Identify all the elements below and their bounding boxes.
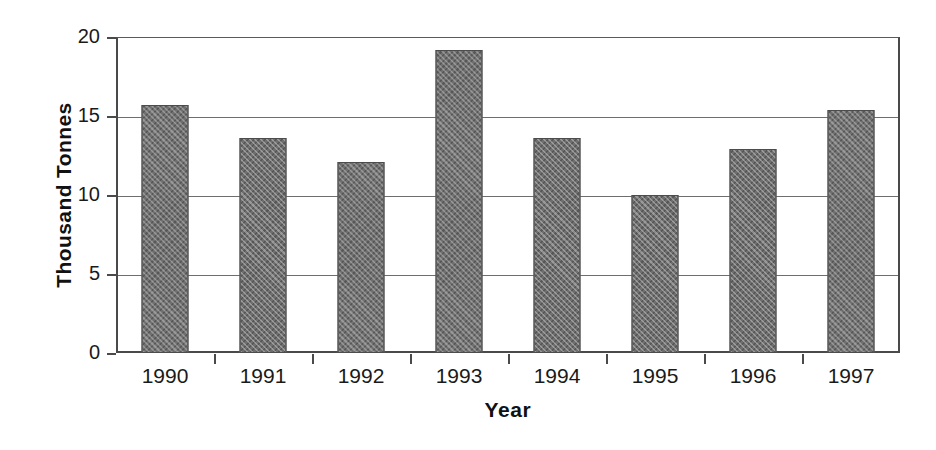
y-axis-tick-label: 5	[58, 263, 100, 283]
bar-chart: Thousand Tonnes 05101520 199019911992199…	[0, 0, 936, 450]
bar-slot	[116, 37, 214, 353]
bar-slot	[704, 37, 802, 353]
y-axis-tick-label: 20	[58, 26, 100, 46]
bar-slot	[214, 37, 312, 353]
bar[interactable]	[240, 138, 287, 353]
x-axis-tick	[508, 354, 510, 364]
x-axis-tick-label: 1995	[606, 364, 704, 387]
x-axis-tick-label: 1997	[802, 364, 900, 387]
bar[interactable]	[828, 110, 875, 353]
bar[interactable]	[436, 50, 483, 353]
bar[interactable]	[142, 105, 189, 353]
x-axis-tick-label: 1996	[704, 364, 802, 387]
bar-slot	[802, 37, 900, 353]
x-axis-tick	[214, 354, 216, 364]
y-axis-tick-label: 0	[58, 342, 100, 362]
x-axis-tick	[312, 354, 314, 364]
bar[interactable]	[534, 138, 581, 353]
y-axis-tick	[107, 195, 116, 197]
x-axis-tick	[410, 354, 412, 364]
y-axis-tick	[107, 353, 116, 355]
bar[interactable]	[632, 195, 679, 353]
y-axis-tick-label: 15	[58, 105, 100, 125]
bar-slot	[312, 37, 410, 353]
bar-slot	[508, 37, 606, 353]
x-axis-title: Year	[116, 398, 900, 422]
x-axis-tick	[606, 354, 608, 364]
bar[interactable]	[338, 162, 385, 353]
bars-layer	[116, 37, 900, 353]
x-axis-tick-label: 1993	[410, 364, 508, 387]
y-axis-tick	[107, 37, 116, 39]
x-axis-tick-label: 1994	[508, 364, 606, 387]
y-axis-tick	[107, 274, 116, 276]
y-axis-tick-label: 10	[58, 184, 100, 204]
bar-slot	[410, 37, 508, 353]
x-axis-tick-label: 1992	[312, 364, 410, 387]
x-axis-tick	[802, 354, 804, 364]
x-axis-tick	[704, 354, 706, 364]
bar[interactable]	[730, 149, 777, 353]
x-axis-tick-label: 1991	[214, 364, 312, 387]
y-axis-tick	[107, 116, 116, 118]
x-axis-tick-label: 1990	[116, 364, 214, 387]
bar-slot	[606, 37, 704, 353]
